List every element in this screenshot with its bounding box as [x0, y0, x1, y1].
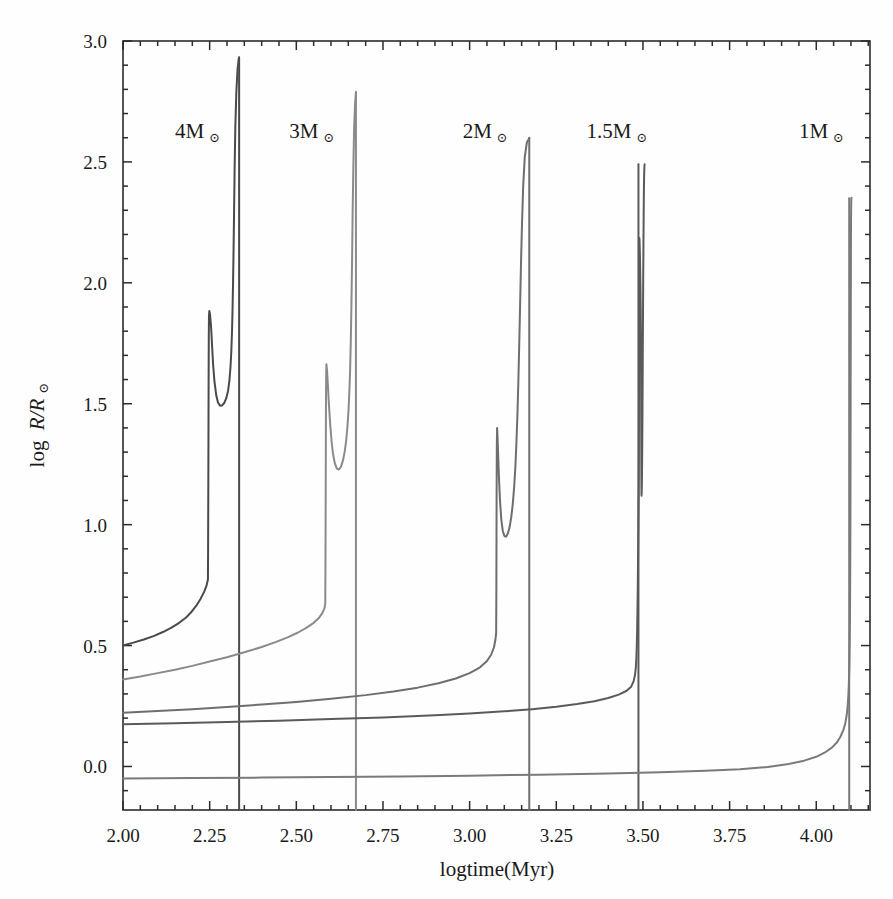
- label-1msun: 1M⊙: [799, 119, 844, 145]
- label-1.5msun: 1.5M⊙: [587, 119, 648, 145]
- x-axis-ticks: 2.002.252.502.753.003.253.503.754.00: [106, 41, 868, 846]
- label-4msun-mass: 4M: [175, 119, 205, 143]
- x-tick-label: 2.75: [366, 825, 399, 846]
- x-tick-label: 2.50: [280, 825, 313, 846]
- sun-symbol-icon: ⊙: [833, 130, 844, 145]
- label-1.5msun-mass: 1.5M: [587, 119, 632, 143]
- sun-symbol-icon: ⊙: [209, 130, 220, 145]
- label-1msun-text: 1M⊙: [799, 119, 844, 145]
- svg-text:log R/R ⊙: log R/R ⊙: [25, 383, 51, 468]
- label-3msun-mass: 3M: [289, 119, 319, 143]
- figure-canvas: 2.002.252.502.753.003.253.503.754.00 0.0…: [0, 0, 893, 899]
- y-tick-label: 0.0: [83, 756, 107, 777]
- y-tick-label: 1.0: [83, 515, 107, 536]
- evolution-track-4Mmsun: [123, 57, 239, 645]
- y-axis-title-sun-symbol: ⊙: [36, 383, 51, 394]
- y-axis-title-ratio: R/R: [25, 399, 49, 432]
- x-tick-label: 3.50: [626, 825, 659, 846]
- x-tick-label: 3.75: [713, 825, 746, 846]
- y-axis-ticks: 0.00.51.01.52.02.53.0: [83, 31, 870, 791]
- label-3msun-text: 3M⊙: [289, 119, 334, 145]
- y-tick-label: 3.0: [83, 31, 107, 52]
- x-tick-label: 2.25: [193, 825, 226, 846]
- label-2msun-text: 2M⊙: [463, 119, 508, 145]
- y-axis-title-log: log: [25, 440, 49, 467]
- y-tick-label: 2.5: [83, 152, 107, 173]
- y-tick-label: 0.5: [83, 636, 107, 657]
- data-tracks: [123, 57, 851, 810]
- x-tick-label: 3.00: [453, 825, 486, 846]
- x-tick-label: 4.00: [800, 825, 833, 846]
- label-3msun: 3M⊙: [289, 119, 334, 145]
- stellar-radius-evolution-chart: 2.002.252.502.753.003.253.503.754.00 0.0…: [0, 0, 893, 899]
- y-tick-label: 2.0: [83, 273, 107, 294]
- label-4msun: 4M⊙: [175, 119, 220, 145]
- sun-symbol-icon: ⊙: [497, 130, 508, 145]
- x-axis-title: logtime(Myr): [440, 857, 554, 881]
- label-2msun-mass: 2M: [463, 119, 493, 143]
- evolution-track-1.5Mmsun: [123, 164, 645, 724]
- x-tick-label: 3.25: [540, 825, 573, 846]
- x-tick-label: 2.00: [106, 825, 139, 846]
- mass-annotations: 4M⊙3M⊙2M⊙1.5M⊙1M⊙: [175, 119, 844, 145]
- label-4msun-text: 4M⊙: [175, 119, 220, 145]
- sun-symbol-icon: ⊙: [636, 130, 647, 145]
- y-axis-title: log R/R ⊙: [25, 383, 51, 468]
- label-1.5msun-text: 1.5M⊙: [587, 119, 648, 145]
- label-2msun: 2M⊙: [463, 119, 508, 145]
- y-tick-label: 1.5: [83, 394, 107, 415]
- sun-symbol-icon: ⊙: [324, 130, 335, 145]
- label-1msun-mass: 1M: [799, 119, 829, 143]
